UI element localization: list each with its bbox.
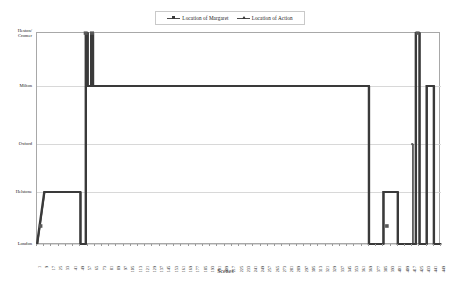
plot-area — [36, 32, 440, 244]
x-tick-mark — [50, 244, 51, 246]
x-tick-mark — [426, 244, 427, 246]
x-tick-mark — [87, 244, 88, 246]
x-tick-mark — [296, 244, 297, 246]
x-tick-mark — [108, 244, 109, 246]
data-point-marker — [39, 224, 43, 228]
x-tick-mark — [195, 244, 196, 246]
x-tick-mark — [332, 244, 333, 246]
x-tick-mark — [58, 244, 59, 246]
legend-entry-action: Location of Action — [237, 15, 293, 21]
x-tick-mark — [418, 244, 419, 246]
legend-label-margaret: Location of Margaret — [182, 15, 228, 21]
triangle-marker-icon — [237, 15, 250, 21]
series-line — [38, 33, 442, 244]
x-tick-mark — [65, 244, 66, 246]
data-point-marker — [411, 143, 413, 145]
x-tick-mark — [317, 244, 318, 246]
x-tick-mark — [411, 244, 412, 246]
series-lines — [37, 33, 441, 245]
x-tick-mark — [79, 244, 80, 246]
x-tick-mark — [260, 244, 261, 246]
x-tick-mark — [137, 244, 138, 246]
x-tick-mark — [440, 244, 441, 246]
y-tick-label-heston-cromer: Heston/ Cromer — [0, 28, 32, 38]
x-tick-mark — [202, 244, 203, 246]
x-tick-mark — [130, 244, 131, 246]
x-tick-mark — [144, 244, 145, 246]
x-tick-mark — [209, 244, 210, 246]
x-tick-mark — [382, 244, 383, 246]
x-tick-mark — [375, 244, 376, 246]
data-point-marker — [90, 31, 94, 34]
x-tick-mark — [166, 244, 167, 246]
x-tick-mark — [325, 244, 326, 246]
chart-legend: Location of Margaret Location of Action — [155, 11, 305, 25]
data-point-marker — [84, 31, 88, 34]
x-tick-mark — [339, 244, 340, 246]
x-tick-mark — [353, 244, 354, 246]
x-tick-mark — [43, 244, 44, 246]
square-marker-icon — [167, 15, 180, 21]
x-tick-mark — [216, 244, 217, 246]
data-point-marker — [416, 31, 420, 34]
x-tick-mark — [123, 244, 124, 246]
x-tick-mark — [36, 244, 37, 246]
y-tick-label-london: London — [0, 241, 32, 246]
x-tick-mark — [188, 244, 189, 246]
x-tick-mark — [281, 244, 282, 246]
x-tick-mark — [173, 244, 174, 246]
chart-root: Location of Margaret Location of Action … — [0, 0, 451, 287]
x-tick-mark — [289, 244, 290, 246]
data-point-marker — [385, 224, 389, 228]
x-tick-mark — [72, 244, 73, 246]
y-tick-label-milton: Milton — [0, 83, 32, 88]
y-axis-labels: Heston/ Cromer Milton Oxford Helstone Lo… — [0, 0, 36, 287]
x-tick-mark — [390, 244, 391, 246]
legend-label-action: Location of Action — [252, 15, 293, 21]
x-axis-title: Scenes — [0, 268, 451, 274]
x-tick-mark — [180, 244, 181, 246]
legend-entry-margaret: Location of Margaret — [167, 15, 228, 21]
x-tick-mark — [238, 244, 239, 246]
x-tick-mark — [245, 244, 246, 246]
x-tick-mark — [101, 244, 102, 246]
x-tick-mark — [224, 244, 225, 246]
x-tick-mark — [368, 244, 369, 246]
x-tick-mark — [274, 244, 275, 246]
x-tick-mark — [346, 244, 347, 246]
series-line — [37, 33, 441, 244]
x-tick-mark — [310, 244, 311, 246]
x-tick-mark — [231, 244, 232, 246]
x-tick-mark — [433, 244, 434, 246]
y-tick-label-helstone: Helstone — [0, 189, 32, 194]
x-tick-mark — [404, 244, 405, 246]
x-tick-mark — [361, 244, 362, 246]
x-tick-mark — [115, 244, 116, 246]
x-tick-mark — [159, 244, 160, 246]
y-tick-label-oxford: Oxford — [0, 141, 32, 146]
x-tick-mark — [151, 244, 152, 246]
x-tick-mark — [303, 244, 304, 246]
x-tick-mark — [252, 244, 253, 246]
x-tick-mark — [397, 244, 398, 246]
x-tick-mark — [94, 244, 95, 246]
x-tick-mark — [267, 244, 268, 246]
